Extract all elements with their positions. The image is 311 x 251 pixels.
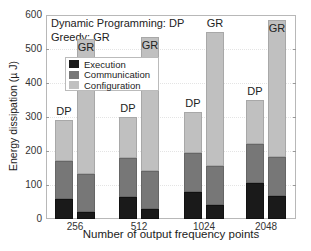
bar-2048-dp [246,0,264,251]
bar-segment-configuration [268,20,286,157]
bar-segment-communication [77,174,95,212]
bar-segment-execution [246,183,264,219]
bar-segment-communication [55,161,73,200]
bar-label-dp: DP [49,105,79,117]
bar-segment-execution [184,192,202,219]
bar-label-gr: GR [135,39,165,51]
bar-segment-configuration [184,112,202,153]
bar-512-dp [119,0,137,251]
legend-item-execution: Execution [69,59,155,70]
bar-segment-configuration [246,100,264,144]
bar-2048-gr [268,0,286,251]
y-tick-mark [293,83,296,84]
bar-segment-communication [184,153,202,192]
y-tick-mark [293,185,296,186]
bar-segment-execution [55,199,73,219]
bar-label-gr: GR [200,17,230,29]
y-tick-label: 200 [18,145,42,156]
bar-segment-communication [268,157,286,196]
y-tick-label: 600 [18,9,42,20]
bar-segment-execution [119,197,137,219]
x-tick-label: 2048 [246,221,286,232]
bar-segment-execution [77,212,95,219]
y-tick-mark [46,83,49,84]
bar-label-dp: DP [240,85,270,97]
bar-segment-communication [141,171,159,210]
bar-segment-configuration [206,32,224,166]
bar-segment-communication [246,144,264,183]
y-tick-label: 500 [18,43,42,54]
legend-label: Communication [84,69,150,80]
bar-label-dp: DP [178,97,208,109]
bar-label-dp: DP [113,102,143,114]
bar-segment-execution [141,209,159,219]
y-tick-mark [293,151,296,152]
y-tick-mark [293,117,296,118]
bar-1024-dp [184,0,202,251]
stacked-bar-chart: Energy dissipation (µ J) Number of outpu… [0,0,311,251]
bar-256-gr [77,0,95,251]
bar-label-gr: GR [71,41,101,53]
x-tick-label: 512 [119,221,159,232]
legend-item-configuration: Configuration [69,80,155,91]
y-tick-mark [293,49,296,50]
legend-label: Configuration [84,80,141,91]
bar-1024-gr [206,0,224,251]
bar-segment-communication [206,166,224,205]
bar-segment-configuration [119,117,137,158]
legend-swatch-communication [69,71,79,79]
y-tick-label: 400 [18,77,42,88]
legend-label: Execution [84,59,126,70]
y-tick-label: 300 [18,111,42,122]
bar-512-gr [141,0,159,251]
y-tick-label: 0 [18,213,42,224]
x-tick-label: 256 [55,221,95,232]
bar-256-dp [55,0,73,251]
x-tick-label: 1024 [184,221,224,232]
y-tick-mark [46,151,49,152]
legend-swatch-configuration [69,81,79,89]
y-tick-mark [46,117,49,118]
bar-segment-communication [119,158,137,197]
legend-item-communication: Communication [69,70,155,81]
bar-segment-execution [206,205,224,219]
legend-swatch-execution [69,60,79,68]
legend: Execution Communication Configuration [65,57,159,91]
y-tick-mark [46,49,49,50]
bar-label-gr: GR [262,22,292,34]
bar-segment-execution [268,196,286,219]
bar-segment-configuration [55,120,73,160]
y-tick-mark [46,185,49,186]
y-tick-label: 100 [18,179,42,190]
